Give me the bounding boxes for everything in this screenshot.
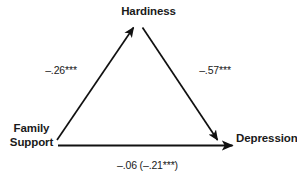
path-arrow-b [143,28,218,141]
path-arrows [0,0,297,185]
path-coefficient-c: –.06 (–.21***) [85,159,210,171]
path-arrow-a [57,28,134,141]
node-family-support: Family Support [0,122,63,149]
path-coefficient-a: –.26*** [30,64,92,76]
node-hardiness: Hardiness [0,5,297,19]
path-coefficient-b: –.57*** [184,64,246,76]
path-diagram: Hardiness Family Support Depression –.26… [0,0,297,185]
node-depression: Depression [236,132,297,146]
